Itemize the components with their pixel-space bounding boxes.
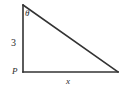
vertex-p-label: P (12, 67, 18, 76)
triangle-figure: θ 3 P x (0, 0, 126, 95)
triangle-drawing (0, 0, 126, 95)
hypotenuse-line (23, 5, 118, 72)
vertical-leg-label: 3 (11, 38, 16, 48)
angle-theta-label: θ (25, 9, 29, 18)
horizontal-leg-label: x (66, 77, 70, 86)
